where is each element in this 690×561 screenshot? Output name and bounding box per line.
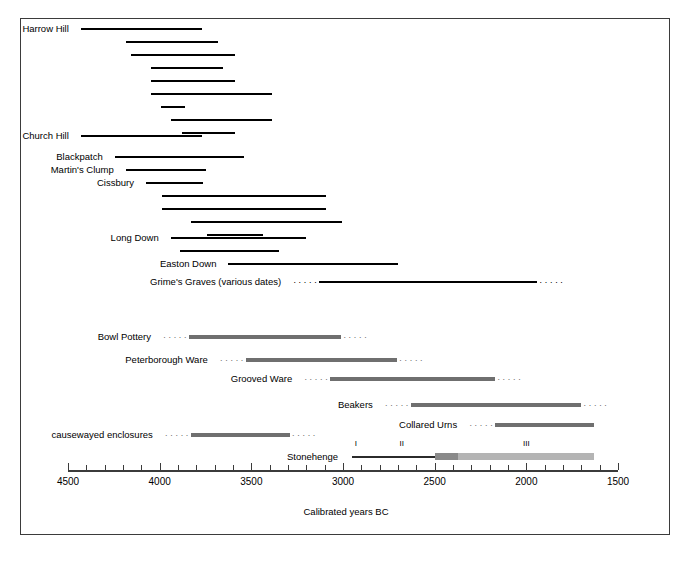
- chart-row: [21, 215, 671, 229]
- dotted-extension: ········: [163, 336, 189, 339]
- range-bar: [228, 263, 398, 265]
- axis-tick-minor: [453, 465, 454, 470]
- axis-tick-minor: [288, 465, 289, 470]
- chart-row: [21, 244, 671, 258]
- chart-row: [21, 189, 671, 203]
- chart-frame: Harrow HillChurch HillBlackpatchMartin's…: [20, 18, 670, 535]
- range-bar: [151, 80, 235, 82]
- axis-tick-minor: [141, 465, 142, 470]
- chart-row: ················Peterborough Ware: [21, 353, 671, 367]
- series-label: causewayed enclosures: [0, 428, 153, 442]
- axis-tick-minor: [123, 465, 124, 470]
- series-label: Martin's Clump: [0, 163, 114, 177]
- axis-tick-major: [343, 463, 344, 470]
- range-bar: [191, 221, 342, 223]
- chart-row: [21, 450, 671, 464]
- chart-row: [21, 87, 671, 101]
- dotted-extension: ········: [304, 378, 330, 381]
- range-bar: [180, 250, 279, 252]
- chart-row: Easton Down: [21, 257, 671, 271]
- series-label: Church Hill: [0, 129, 69, 143]
- dotted-extension: ········: [583, 404, 609, 407]
- axis-tick-label: 2500: [412, 476, 458, 487]
- axis-line: [68, 470, 618, 472]
- axis-tick-label: 2000: [503, 476, 549, 487]
- series-label: Bowl Pottery: [0, 330, 151, 344]
- range-bar: [411, 403, 582, 407]
- axis-tick-minor: [196, 465, 197, 470]
- chart-row: ················Bowl Pottery: [21, 330, 671, 344]
- axis-tick-minor: [233, 465, 234, 470]
- axis-tick-minor: [490, 465, 491, 470]
- axis-tick-minor: [581, 465, 582, 470]
- range-bar: [131, 54, 235, 56]
- series-label: Peterborough Ware: [0, 353, 208, 367]
- chart-row: Martin's Clump: [21, 163, 671, 177]
- stonehenge-phase-marker: II: [395, 439, 409, 448]
- axis-tick-label: 4500: [45, 476, 91, 487]
- axis-tick-minor: [600, 465, 601, 470]
- chart-row: Church Hill: [21, 129, 671, 143]
- axis-tick-minor: [215, 465, 216, 470]
- range-bar: [115, 156, 244, 158]
- range-bar: [151, 93, 273, 95]
- axis-tick-minor: [325, 465, 326, 470]
- axis-tick-minor: [563, 465, 564, 470]
- chart-page: Harrow HillChurch HillBlackpatchMartin's…: [0, 0, 690, 561]
- series-label: Beakers: [73, 398, 373, 412]
- dotted-extension: ········: [293, 281, 319, 284]
- range-bar: [81, 135, 202, 137]
- chart-row: [21, 113, 671, 127]
- series-label: Easton Down: [0, 257, 216, 271]
- axis-tick-minor: [398, 465, 399, 470]
- axis-tick-minor: [270, 465, 271, 470]
- axis-tick-minor: [86, 465, 87, 470]
- dotted-extension: ········: [220, 359, 246, 362]
- axis-tick-major: [526, 463, 527, 470]
- chart-row: ················Grooved Ware: [21, 372, 671, 386]
- series-label: Grooved Ware: [0, 372, 292, 386]
- dotted-extension: ········: [539, 281, 565, 284]
- range-bar: [191, 433, 290, 437]
- stonehenge-phase-3: [458, 453, 595, 460]
- chart-row: ················Grime's Graves (various …: [21, 275, 671, 289]
- range-bar: [189, 335, 341, 339]
- range-bar: [81, 28, 202, 30]
- axis-tick-minor: [306, 465, 307, 470]
- axis-tick-label: 4000: [137, 476, 183, 487]
- chart-row: ················Beakers: [21, 398, 671, 412]
- range-bar: [161, 106, 186, 108]
- dotted-extension: ········: [497, 378, 523, 381]
- chart-row: ················causewayed enclosures: [21, 428, 671, 442]
- range-bar: [246, 358, 397, 362]
- series-label: Harrow Hill: [0, 22, 69, 36]
- dotted-extension: ········: [292, 434, 318, 437]
- range-bar: [319, 281, 537, 283]
- dotted-extension: ········: [399, 359, 425, 362]
- stonehenge-phase-marker: III: [519, 439, 533, 448]
- x-axis-title: Calibrated years BC: [21, 506, 671, 517]
- axis-tick-major: [251, 463, 252, 470]
- range-bar: [162, 195, 326, 197]
- chart-row: Long Down: [21, 231, 671, 245]
- axis-tick-label: 3500: [228, 476, 274, 487]
- range-bar: [146, 182, 203, 184]
- series-label: Long Down: [0, 231, 159, 245]
- range-bar: [495, 423, 594, 427]
- series-label: Cissbury: [0, 176, 134, 190]
- series-label: Blackpatch: [0, 150, 103, 164]
- axis-tick-minor: [105, 465, 106, 470]
- axis-tick-major: [68, 463, 69, 470]
- axis-tick-major: [618, 463, 619, 470]
- dotted-extension: ········: [165, 434, 191, 437]
- stonehenge-phase-marker: I: [349, 439, 363, 448]
- range-bar: [151, 67, 223, 69]
- range-bar: [162, 208, 326, 210]
- chart-row: Cissbury: [21, 176, 671, 190]
- range-bar: [171, 237, 307, 239]
- chart-row: [21, 35, 671, 49]
- chart-row: [21, 202, 671, 216]
- axis-tick-minor: [545, 465, 546, 470]
- dotted-extension: ········: [469, 424, 495, 427]
- dotted-extension: ········: [343, 336, 369, 339]
